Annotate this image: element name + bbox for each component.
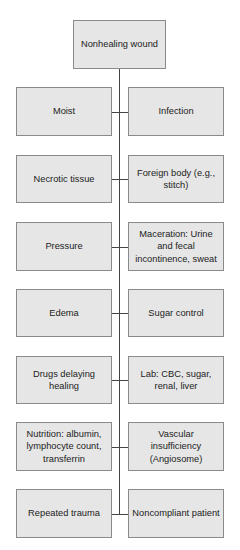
connector-line [112,179,128,180]
cause-label: Drugs delaying healing [20,368,108,393]
cause-node-right: Foreign body (e.g., stitch) [128,155,224,203]
cause-label: Vascular insufficiency (Angiosome) [132,428,220,466]
cause-node-left: Moist [16,87,112,136]
cause-node-left: Repeated trauma [16,489,112,538]
cause-node-right: Infection [128,87,224,136]
cause-node-right: Vascular insufficiency (Angiosome) [128,422,224,471]
cause-label: Moist [53,105,75,118]
cause-node-right: Lab: CBC, sugar, renal, liver [128,356,224,404]
cause-label: Pressure [45,240,82,253]
cause-label: Necrotic tissue [34,173,95,186]
cause-label: Infection [158,105,193,118]
trunk-line [119,68,120,515]
connector-line [112,380,128,381]
root-label: Nonhealing wound [81,38,158,51]
connector-line [112,447,128,448]
cause-label: Nutrition: albumin, lymphocyte count, tr… [20,428,108,466]
cause-node-left: Necrotic tissue [16,155,112,203]
cause-node-right: Maceration: Urine and fecal incontinence… [128,222,224,271]
cause-label: Repeated trauma [28,507,100,520]
cause-label: Lab: CBC, sugar, renal, liver [132,368,220,393]
connector-line [112,313,128,314]
connector-line [112,112,128,113]
connector-line [112,514,128,515]
cause-node-left: Pressure [16,222,112,271]
cause-node-left: Edema [16,289,112,337]
cause-node-right: Sugar control [128,289,224,337]
cause-node-left: Drugs delaying healing [16,356,112,404]
cause-node-right: Noncompliant patient [128,489,224,538]
cause-label: Noncompliant patient [132,507,219,520]
connector-line [112,247,128,248]
root-node: Nonhealing wound [73,20,166,69]
cause-label: Sugar control [148,307,203,320]
cause-label: Maceration: Urine and fecal incontinence… [132,228,220,266]
cause-label: Edema [49,307,78,320]
cause-node-left: Nutrition: albumin, lymphocyte count, tr… [16,422,112,471]
cause-label: Foreign body (e.g., stitch) [132,167,220,192]
